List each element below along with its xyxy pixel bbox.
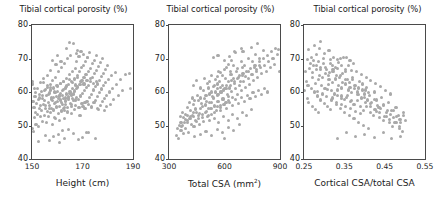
panel-total-csa: Tibial cortical porosity (%) 4050607080 … [147, 0, 294, 198]
y-tick-label: 60 [8, 88, 28, 96]
scatter-point [104, 68, 107, 71]
scatter-point [63, 106, 66, 109]
scatter-point [91, 62, 94, 65]
scatter-point [331, 81, 334, 84]
scatter-point [359, 112, 362, 115]
scatter-point [184, 127, 187, 130]
scatter-point [63, 137, 66, 140]
scatter-point [224, 101, 227, 104]
y-tick-label: 70 [8, 55, 28, 63]
scatter-point [252, 79, 255, 82]
scatter-point [192, 103, 195, 106]
scatter-point [251, 60, 254, 63]
scatter-point [317, 60, 320, 63]
scatter-point [391, 125, 394, 128]
scatter-point [369, 79, 372, 82]
scatter-point [94, 137, 97, 140]
scatter-point [204, 94, 207, 97]
scatter-point [243, 64, 246, 67]
plot-area-1 [31, 24, 134, 160]
x-tick-label: 190 [116, 163, 150, 171]
scatter-point [228, 55, 231, 58]
scatter-point [101, 100, 104, 103]
scatter-point [386, 109, 389, 112]
scatter-point [232, 64, 235, 67]
scatter-point [203, 77, 206, 80]
scatter-point [240, 96, 243, 99]
scatter-point [39, 115, 42, 118]
scatter-point [199, 133, 202, 136]
scatter-point [210, 113, 213, 116]
scatter-point [319, 40, 322, 43]
scatter-point [182, 132, 185, 135]
y-tick-label: 80 [8, 21, 28, 29]
scatter-point [213, 117, 216, 120]
scatter-point [77, 98, 80, 101]
y-tick-label: 70 [145, 55, 165, 63]
scatter-point [85, 79, 88, 82]
scatter-point [378, 111, 381, 114]
x-axis-label-2: Total CSA (mm2) [168, 178, 281, 189]
scatter-point [404, 119, 407, 122]
scatter-point [303, 89, 306, 92]
scatter-point [96, 82, 99, 85]
scatter-point [36, 87, 39, 90]
x-tick-label: 300 [152, 163, 186, 171]
scatter-point [35, 102, 38, 105]
scatter-point [216, 93, 219, 96]
scatter-point [103, 109, 106, 112]
scatter-point [254, 95, 257, 98]
y-tick-label: 50 [8, 122, 28, 130]
scatter-point [365, 76, 368, 79]
scatter-point [235, 70, 238, 73]
scatter-point [360, 96, 363, 99]
scatter-point [229, 73, 232, 76]
scatter-point [231, 104, 234, 107]
scatter-point [55, 105, 58, 108]
scatter-point [334, 66, 337, 69]
scatter-point [207, 86, 210, 89]
x-tick-label: 600 [208, 163, 242, 171]
scatter-point [43, 114, 46, 117]
scatter-point [111, 87, 114, 90]
scatter-point [257, 89, 260, 92]
scatter-point [331, 96, 334, 99]
scatter-point [335, 101, 338, 104]
scatter-point [70, 112, 73, 115]
scatter-point [48, 139, 51, 142]
scatter-point [219, 104, 222, 107]
scatter-point [227, 80, 230, 83]
scatter-point [311, 105, 314, 108]
scatter-point [82, 82, 85, 85]
scatter-point [197, 114, 200, 117]
scatter-point [65, 47, 68, 50]
scatter-point [78, 114, 81, 117]
scatter-point [260, 93, 263, 96]
scatter-point [344, 70, 347, 73]
scatter-point [379, 107, 382, 110]
scatter-point [107, 78, 110, 81]
scatter-point [262, 57, 265, 60]
scatter-point [327, 49, 330, 52]
scatter-point [72, 132, 75, 135]
scatter-point [37, 125, 40, 128]
scatter-point [373, 90, 376, 93]
scatter-point [250, 73, 253, 76]
scatter-point [54, 63, 57, 66]
scatter-point [250, 46, 253, 49]
scatter-point [319, 98, 322, 101]
scatter-point [329, 108, 332, 111]
scatter-point [348, 81, 351, 84]
scatter-point [325, 95, 328, 98]
scatter-point [236, 67, 239, 70]
scatter-point [32, 130, 35, 133]
scatter-point [350, 91, 353, 94]
scatter-point [52, 109, 55, 112]
scatter-point [244, 86, 247, 89]
scatter-point [92, 88, 95, 91]
scatter-point [255, 68, 258, 71]
scatter-point [317, 111, 320, 114]
scatter-point [262, 49, 265, 52]
scatter-point [37, 140, 40, 143]
scatter-point [369, 105, 372, 108]
